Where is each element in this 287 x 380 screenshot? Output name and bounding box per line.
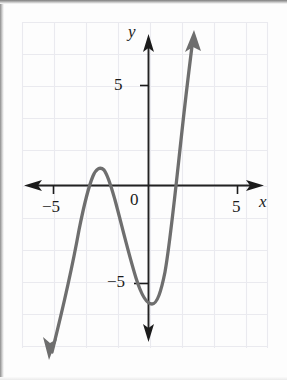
y-tick-label-positive-5: 5: [114, 75, 123, 95]
y-axis-label: y: [128, 22, 136, 42]
curve-start-arrowhead: [43, 337, 57, 360]
coordinate-plane: [0, 0, 287, 380]
x-axis-label: x: [259, 192, 267, 212]
x-tick-label-negative-5: −5: [42, 197, 60, 217]
figure-container: y x 0 −5 5 5 −5: [0, 0, 287, 380]
origin-label: 0: [130, 190, 139, 210]
y-tick-label-negative-5: −5: [107, 272, 125, 292]
x-tick-label-positive-5: 5: [232, 197, 241, 217]
